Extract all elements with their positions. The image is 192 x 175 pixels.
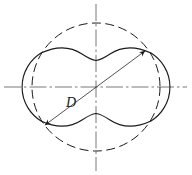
diameter-label: D (65, 95, 76, 110)
engineering-drawing-canvas: D (0, 0, 192, 175)
figure-container: D (0, 0, 192, 175)
